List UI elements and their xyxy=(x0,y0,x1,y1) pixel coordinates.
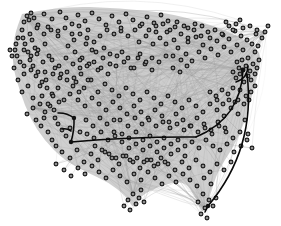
graph-node[interactable] xyxy=(76,166,80,170)
graph-node[interactable] xyxy=(112,118,116,122)
graph-node[interactable] xyxy=(179,58,183,62)
graph-node[interactable] xyxy=(122,204,126,208)
graph-node[interactable] xyxy=(153,108,157,112)
graph-node[interactable] xyxy=(231,86,235,90)
graph-node[interactable] xyxy=(224,130,228,134)
graph-node[interactable] xyxy=(51,94,55,98)
graph-node[interactable] xyxy=(163,160,167,164)
graph-node[interactable] xyxy=(94,50,98,54)
highlight-terminal-node[interactable] xyxy=(69,140,73,144)
graph-node[interactable] xyxy=(164,42,168,46)
graph-node[interactable] xyxy=(167,174,171,178)
graph-node[interactable] xyxy=(242,102,246,106)
graph-node[interactable] xyxy=(70,22,74,26)
graph-node[interactable] xyxy=(72,76,76,80)
graph-node[interactable] xyxy=(53,66,57,70)
graph-node[interactable] xyxy=(160,114,164,118)
graph-node[interactable] xyxy=(213,28,217,32)
graph-node[interactable] xyxy=(181,118,185,122)
graph-node[interactable] xyxy=(218,148,222,152)
graph-node[interactable] xyxy=(234,22,238,26)
graph-node[interactable] xyxy=(97,17,101,21)
graph-node[interactable] xyxy=(169,142,173,146)
graph-node[interactable] xyxy=(44,78,48,82)
graph-node[interactable] xyxy=(208,36,212,40)
graph-node[interactable] xyxy=(226,92,230,96)
graph-node[interactable] xyxy=(231,136,235,140)
graph-node[interactable] xyxy=(68,92,72,96)
graph-node[interactable] xyxy=(38,102,42,106)
graph-node[interactable] xyxy=(215,98,219,102)
graph-node[interactable] xyxy=(156,162,160,166)
graph-node[interactable] xyxy=(103,82,107,86)
graph-node[interactable] xyxy=(114,64,118,68)
graph-node[interactable] xyxy=(186,36,190,40)
graph-node[interactable] xyxy=(183,154,187,158)
graph-node[interactable] xyxy=(194,35,198,39)
graph-node[interactable] xyxy=(78,130,82,134)
graph-node[interactable] xyxy=(112,32,116,36)
graph-node[interactable] xyxy=(132,66,136,70)
graph-node[interactable] xyxy=(182,128,186,132)
graph-node[interactable] xyxy=(174,112,178,116)
graph-node[interactable] xyxy=(64,16,68,20)
graph-node[interactable] xyxy=(216,53,220,57)
graph-node[interactable] xyxy=(139,178,143,182)
graph-node[interactable] xyxy=(124,86,128,90)
graph-node[interactable] xyxy=(96,90,100,94)
graph-node[interactable] xyxy=(229,160,233,164)
graph-node[interactable] xyxy=(13,48,17,52)
graph-node[interactable] xyxy=(50,138,54,142)
graph-node[interactable] xyxy=(159,102,163,106)
graph-node[interactable] xyxy=(166,19,170,23)
graph-node[interactable] xyxy=(167,120,171,124)
graph-node[interactable] xyxy=(23,42,27,46)
graph-node[interactable] xyxy=(168,28,172,32)
graph-node[interactable] xyxy=(194,158,198,162)
graph-node[interactable] xyxy=(155,150,159,154)
graph-node[interactable] xyxy=(253,84,257,88)
graph-node[interactable] xyxy=(237,66,241,70)
graph-node[interactable] xyxy=(152,164,156,168)
graph-node[interactable] xyxy=(208,170,212,174)
graph-node[interactable] xyxy=(263,30,267,34)
graph-node[interactable] xyxy=(52,108,56,112)
highlight-terminal-node[interactable] xyxy=(72,116,76,120)
graph-node[interactable] xyxy=(42,32,46,36)
graph-node[interactable] xyxy=(43,42,47,46)
graph-node[interactable] xyxy=(78,66,82,70)
graph-node[interactable] xyxy=(20,90,24,94)
graph-node[interactable] xyxy=(111,168,115,172)
graph-node[interactable] xyxy=(79,72,83,76)
graph-node[interactable] xyxy=(70,32,74,36)
graph-node[interactable] xyxy=(138,166,142,170)
graph-node[interactable] xyxy=(32,16,36,20)
graph-node[interactable] xyxy=(25,112,29,116)
graph-node[interactable] xyxy=(119,26,123,30)
graph-node[interactable] xyxy=(12,66,16,70)
graph-node[interactable] xyxy=(84,42,88,46)
graph-node[interactable] xyxy=(138,52,142,56)
graph-node[interactable] xyxy=(134,142,138,146)
graph-node[interactable] xyxy=(254,32,258,36)
graph-node[interactable] xyxy=(124,12,128,16)
graph-node[interactable] xyxy=(31,96,35,100)
graph-node[interactable] xyxy=(121,154,125,158)
graph-node[interactable] xyxy=(187,166,191,170)
graph-node[interactable] xyxy=(105,122,109,126)
graph-node[interactable] xyxy=(238,130,242,134)
graph-node[interactable] xyxy=(102,46,106,50)
graph-node[interactable] xyxy=(56,29,60,33)
graph-node[interactable] xyxy=(141,148,145,152)
graph-node[interactable] xyxy=(120,140,124,144)
graph-node[interactable] xyxy=(41,60,45,64)
graph-node[interactable] xyxy=(34,74,38,78)
graph-node[interactable] xyxy=(173,100,177,104)
graph-node[interactable] xyxy=(90,96,94,100)
graph-node[interactable] xyxy=(83,19,87,23)
graph-node[interactable] xyxy=(147,118,151,122)
graph-node[interactable] xyxy=(64,56,68,60)
graph-node[interactable] xyxy=(18,60,22,64)
graph-node[interactable] xyxy=(166,94,170,98)
graph-node[interactable] xyxy=(84,118,88,122)
